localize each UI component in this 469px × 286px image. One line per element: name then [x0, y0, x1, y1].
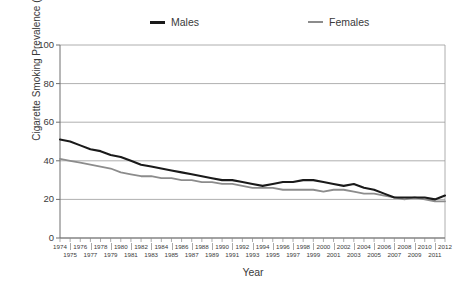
gridlines: [60, 45, 445, 238]
x-tick-label-separator: [415, 243, 416, 250]
x-tick-label-separator: [232, 243, 233, 250]
x-tick-label-separator: [435, 243, 436, 250]
x-tick-label-separator: [192, 243, 193, 250]
x-tick-label-separator: [273, 243, 274, 250]
x-tick-label-separator: [253, 243, 254, 250]
x-tick-label-separator: [172, 243, 173, 250]
x-tick-label-separator: [131, 243, 132, 250]
x-tick-label-separator: [313, 243, 314, 250]
series-line-males: [60, 140, 445, 200]
x-axis-title: Year: [60, 266, 446, 278]
x-tick-label-separator: [394, 243, 395, 250]
x-tick-label-2012: 2012: [433, 243, 457, 250]
x-tick-label-separator: [70, 243, 71, 250]
x-tick-label-separator: [374, 243, 375, 250]
x-tick-label-separator: [91, 243, 92, 250]
x-tick-label-separator: [212, 243, 213, 250]
axis-lines: [56, 45, 445, 238]
x-tick-label-separator: [293, 243, 294, 250]
x-tick-label-2011: 2011: [423, 251, 447, 258]
x-tick-label-separator: [354, 243, 355, 250]
x-tick-label-separator: [334, 243, 335, 250]
x-tick-label-separator: [111, 243, 112, 250]
smoking-prevalence-line-chart: Males Females Cigarette Smoking Prevalen…: [0, 0, 469, 286]
x-tick-label-separator: [151, 243, 152, 250]
x-axis-tick-marks: [60, 238, 445, 242]
x-axis-tick-labels: 1974197619781980198219841986198819901992…: [0, 243, 469, 265]
